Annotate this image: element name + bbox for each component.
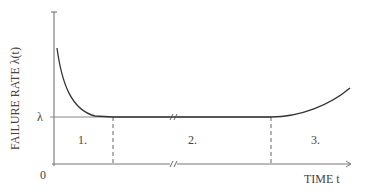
failure-rate-curve [57,48,350,117]
region-3-label: 3. [311,133,320,148]
axis-break-bottom [170,161,177,167]
lambda-tick-label: λ [37,110,43,125]
zero-tick-label: 0 [40,168,46,183]
y-axis-label: FAILURE RATE λ(t) [8,47,23,150]
x-axis-label: TIME t [304,172,340,187]
region-1-label: 1. [78,133,87,148]
region-2-label: 2. [188,133,197,148]
bathtub-chart [0,0,369,193]
